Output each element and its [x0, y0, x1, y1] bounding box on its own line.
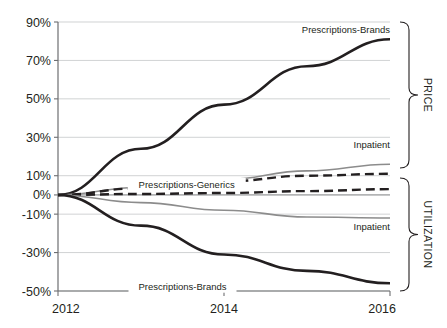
chart-container: 90%70%50%30%10%0%-10%-30%-50% 2012201420… — [0, 0, 447, 328]
series-label: Inpatient — [354, 221, 391, 232]
y-tick-label: 30% — [26, 131, 51, 145]
x-tick-label: 2016 — [368, 302, 396, 316]
y-tick-label: -10% — [22, 208, 51, 222]
series-label: Prescriptions-Generics — [139, 179, 235, 190]
series-label: Inpatient — [354, 139, 391, 150]
y-tick-label: -30% — [22, 246, 51, 260]
series-label: Prescriptions-Brands — [302, 24, 390, 35]
trend-line-chart: 90%70%50%30%10%0%-10%-30%-50% 2012201420… — [0, 0, 447, 328]
group-label-price: PRICE — [422, 78, 434, 112]
group-label-utilization: UTILIZATION — [422, 201, 434, 269]
series-label: Prescriptions-Brands — [138, 281, 226, 292]
x-tick-label: 2014 — [210, 302, 238, 316]
y-tick-label: 50% — [26, 92, 51, 106]
y-tick-label: 10% — [26, 169, 51, 183]
y-tick-label: -50% — [22, 285, 51, 299]
x-tick-label: 2012 — [52, 302, 80, 316]
y-tick-label: 70% — [26, 54, 51, 68]
y-tick-label: 90% — [26, 16, 51, 30]
y-tick-label: 0% — [33, 188, 51, 202]
